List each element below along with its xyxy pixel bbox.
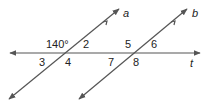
angle-4-label: 4 [65, 56, 71, 68]
label-line-a: a [123, 7, 129, 19]
angle-8-label: 8 [133, 56, 139, 68]
angle-6-label: 6 [151, 38, 157, 50]
label-line-b: b [192, 7, 198, 19]
angle-1-label: 140° [46, 38, 69, 50]
parallel-marker-a [103, 21, 107, 25]
diagram-canvas: a b t 140° 2 3 4 5 6 7 8 [0, 0, 213, 108]
angle-5-label: 5 [125, 38, 131, 50]
line-b [79, 9, 187, 99]
line-a [9, 9, 119, 99]
angle-2-label: 2 [83, 38, 89, 50]
label-line-t: t [190, 57, 194, 69]
angle-7-label: 7 [108, 56, 114, 68]
parallel-marker-b [171, 21, 175, 25]
angle-3-label: 3 [39, 56, 45, 68]
diagram: a b t 140° 2 3 4 5 6 7 8 [0, 0, 213, 108]
